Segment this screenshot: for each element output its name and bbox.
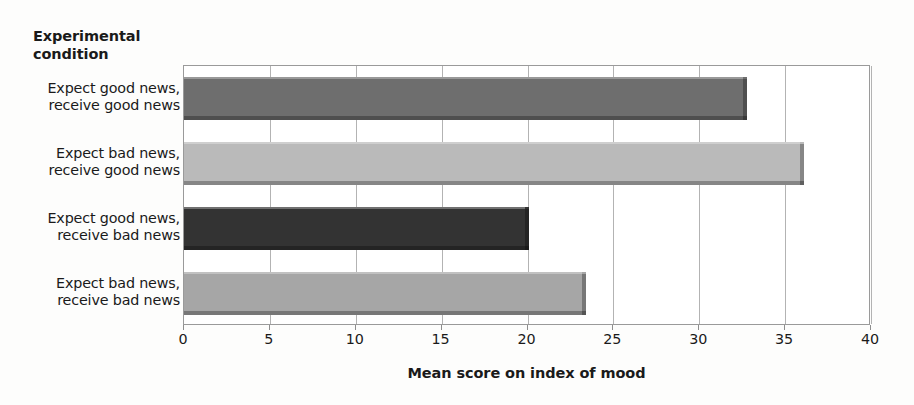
bar-shadow (743, 79, 747, 120)
gridline (871, 66, 872, 324)
bar-fill (184, 272, 586, 315)
x-axis-tick-label: 5 (264, 331, 273, 347)
bar-fill (184, 207, 529, 250)
x-axis-tick-mark (269, 325, 270, 330)
bar-highlight (184, 142, 800, 144)
bar-shadow (184, 246, 529, 250)
plot-area (183, 65, 870, 325)
gridline (785, 66, 786, 324)
y-axis-tick-label-line: receive bad news (28, 227, 180, 244)
x-axis-tick-label: 10 (346, 331, 364, 347)
chart-figure: Experimental condition Expect good news,… (0, 0, 914, 405)
y-axis-tick-label: Expect bad news,receive bad news (28, 275, 180, 309)
bar-shadow (525, 209, 529, 250)
bar (184, 207, 529, 250)
x-axis-tick-mark (355, 325, 356, 330)
y-axis-tick-label: Expect bad news,receive good news (28, 145, 180, 179)
y-axis-tick-label-line: Expect bad news, (28, 145, 180, 162)
x-axis-tick-mark (784, 325, 785, 330)
y-axis-tick-label-line: receive good news (28, 162, 180, 179)
bar-fill (184, 142, 804, 185)
y-axis-title: Experimental condition (33, 28, 183, 63)
x-axis-tick-label: 40 (861, 331, 879, 347)
bar-shadow (184, 181, 804, 185)
y-axis-tick-label-line: Expect good news, (28, 210, 180, 227)
bar (184, 77, 747, 120)
x-axis-title: Mean score on index of mood (183, 365, 870, 381)
x-axis-tick-label: 15 (432, 331, 450, 347)
x-axis-tick-label: 20 (517, 331, 535, 347)
x-axis-tick-label: 35 (775, 331, 793, 347)
bar-highlight (184, 207, 525, 209)
x-axis-tick-mark (698, 325, 699, 330)
bar-shadow (184, 311, 586, 315)
x-axis-tick-label: 0 (178, 331, 187, 347)
x-axis-tick-mark (527, 325, 528, 330)
x-axis-tick-mark (183, 325, 184, 330)
x-axis-tick-label: 25 (603, 331, 621, 347)
y-axis-tick-label: Expect good news,receive good news (28, 80, 180, 114)
bar-shadow (582, 274, 586, 315)
y-axis-tick-label-line: Expect bad news, (28, 275, 180, 292)
x-axis-tick-mark (612, 325, 613, 330)
bar-shadow (800, 144, 804, 185)
x-axis-tick-mark (870, 325, 871, 330)
bar (184, 272, 586, 315)
x-axis-tick-label: 30 (689, 331, 707, 347)
y-axis-title-line-2: condition (33, 46, 183, 64)
bar-highlight (184, 272, 582, 274)
y-axis-tick-label-line: Expect good news, (28, 80, 180, 97)
y-axis-tick-label: Expect good news,receive bad news (28, 210, 180, 244)
bar-fill (184, 77, 747, 120)
y-axis-title-line-1: Experimental (33, 28, 183, 46)
y-axis-tick-label-line: receive bad news (28, 292, 180, 309)
bar-shadow (184, 116, 747, 120)
bar-highlight (184, 77, 743, 79)
x-axis-tick-mark (441, 325, 442, 330)
bar (184, 142, 804, 185)
y-axis-tick-label-line: receive good news (28, 97, 180, 114)
